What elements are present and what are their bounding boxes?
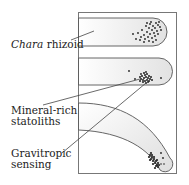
label-chara-genus: Chara (11, 38, 43, 50)
rhizoid-cell-3 (79, 103, 173, 172)
label-sensing-line2: sensing (11, 159, 71, 170)
rhizoid-cell-2 (79, 58, 173, 85)
label-statoliths-line2: statoliths (11, 116, 77, 127)
label-gravitropic-sensing: Gravitropic sensing (11, 148, 71, 170)
label-rhizoid-word: rhizoid (43, 38, 83, 50)
label-chara-rhizoid: Chara rhizoid (11, 39, 84, 50)
label-mineral-rich-statoliths: Mineral-rich statoliths (11, 105, 77, 127)
